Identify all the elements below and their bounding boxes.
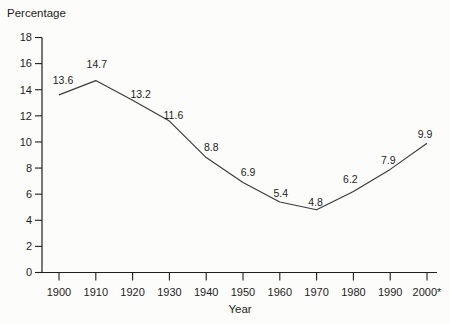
y-tick-label: 16 <box>20 57 32 69</box>
y-tick-label: 12 <box>20 110 32 122</box>
x-tick-label: 1920 <box>120 286 144 298</box>
data-point-label: 8.8 <box>204 141 219 153</box>
x-tick-label: 1900 <box>47 286 71 298</box>
axes <box>42 38 437 273</box>
data-point-label: 6.9 <box>241 166 256 178</box>
data-series-line <box>59 81 427 210</box>
x-tick-label: 1990 <box>378 286 402 298</box>
line-chart-figure: Percentage 024681012141618 1900191019201… <box>0 0 450 324</box>
x-axis-ticks: 1900191019201930194019501960197019801990… <box>47 273 442 299</box>
data-series <box>59 81 427 210</box>
y-tick-label: 0 <box>26 266 32 278</box>
x-tick-label: 1950 <box>231 286 255 298</box>
y-tick-label: 6 <box>26 188 32 200</box>
x-tick-label: 1930 <box>157 286 181 298</box>
y-tick-label: 10 <box>20 136 32 148</box>
y-axis-ticks: 024681012141618 <box>20 31 42 278</box>
data-point-labels: 13.614.713.211.68.86.95.44.86.27.99.9 <box>53 58 433 208</box>
y-tick-label: 4 <box>26 214 32 226</box>
line-chart: Percentage 024681012141618 1900191019201… <box>0 0 450 324</box>
data-point-label: 4.8 <box>308 196 323 208</box>
data-point-label: 5.4 <box>273 187 288 199</box>
y-tick-label: 18 <box>20 31 32 43</box>
x-tick-label: 1910 <box>84 286 108 298</box>
data-point-label: 13.6 <box>53 74 74 86</box>
y-axis-title: Percentage <box>7 7 66 19</box>
data-point-label: 6.2 <box>343 173 358 185</box>
data-point-label: 11.6 <box>164 109 184 121</box>
y-tick-label: 2 <box>26 240 32 252</box>
x-tick-label: 1940 <box>194 286 218 298</box>
x-tick-label: 2000* <box>413 286 442 298</box>
x-tick-label: 1970 <box>304 286 328 298</box>
x-axis-title: Year <box>228 303 251 315</box>
y-tick-label: 8 <box>26 162 32 174</box>
x-tick-label: 1960 <box>268 286 292 298</box>
data-point-label: 13.2 <box>130 88 151 100</box>
y-tick-label: 14 <box>20 84 32 96</box>
data-point-label: 14.7 <box>87 58 108 70</box>
x-tick-label: 1980 <box>341 286 365 298</box>
data-point-label: 7.9 <box>381 154 396 166</box>
data-point-label: 9.9 <box>418 128 433 140</box>
